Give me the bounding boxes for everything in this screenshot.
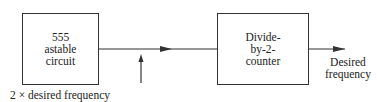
astable-circuit-label: 555 astable circuit xyxy=(45,31,77,67)
output-label: Desired frequency xyxy=(318,56,377,80)
input-signal-label: 2 × desired frequency xyxy=(10,89,110,101)
divider-label: Divide- by-2- counter xyxy=(245,31,280,67)
arrowhead-icon xyxy=(160,46,172,52)
pointer-arrowhead-icon xyxy=(139,54,144,62)
output-arrowhead-icon xyxy=(333,46,345,52)
astable-circuit-block: 555 astable circuit xyxy=(22,13,99,85)
divider-block: Divide- by-2- counter xyxy=(217,13,309,85)
